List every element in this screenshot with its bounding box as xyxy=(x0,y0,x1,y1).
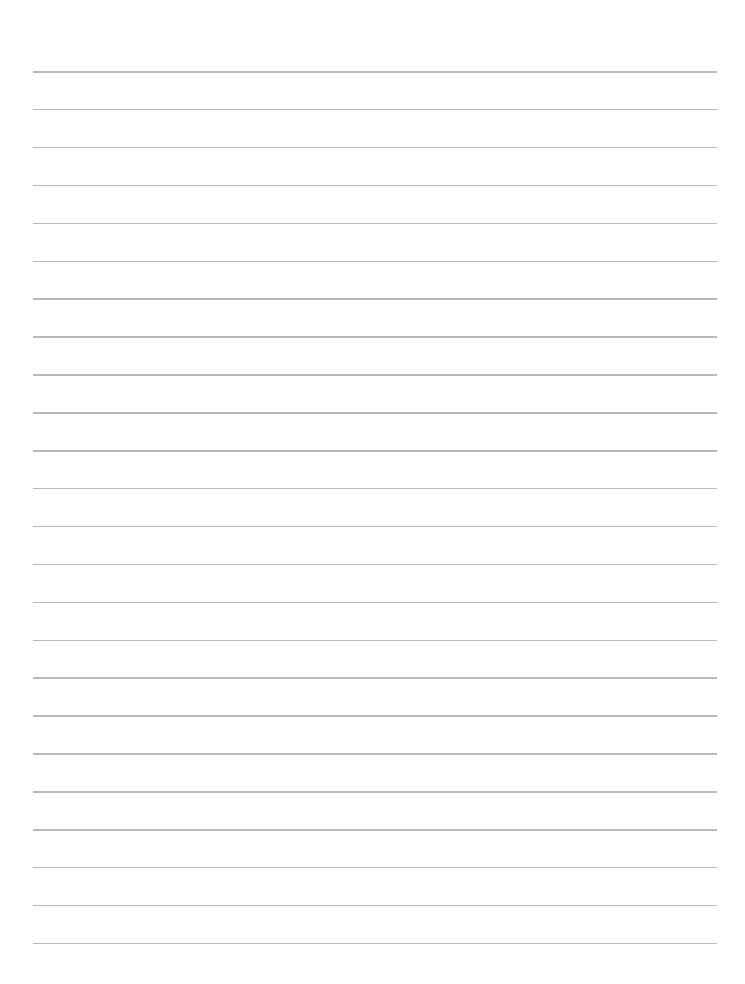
ruled-line xyxy=(33,488,717,490)
ruled-line xyxy=(33,640,717,642)
ruled-line xyxy=(33,564,717,566)
ruled-line xyxy=(33,715,717,717)
ruled-line xyxy=(33,147,717,149)
ruled-line xyxy=(33,374,717,376)
ruled-line xyxy=(33,261,717,263)
ruled-line xyxy=(33,450,717,452)
ruled-line xyxy=(33,867,717,869)
ruled-line xyxy=(33,677,717,679)
ruled-line xyxy=(33,791,717,793)
ruled-line xyxy=(33,298,717,300)
ruled-line xyxy=(33,602,717,604)
ruled-line xyxy=(33,71,717,73)
ruled-line xyxy=(33,223,717,225)
ruled-line xyxy=(33,336,717,338)
ruled-line xyxy=(33,753,717,755)
lined-paper-page xyxy=(0,0,745,984)
ruled-line xyxy=(33,829,717,831)
ruled-line xyxy=(33,943,717,945)
ruled-line xyxy=(33,526,717,528)
ruled-line xyxy=(33,185,717,187)
ruled-line xyxy=(33,109,717,111)
ruled-line xyxy=(33,412,717,414)
ruled-line xyxy=(33,905,717,907)
